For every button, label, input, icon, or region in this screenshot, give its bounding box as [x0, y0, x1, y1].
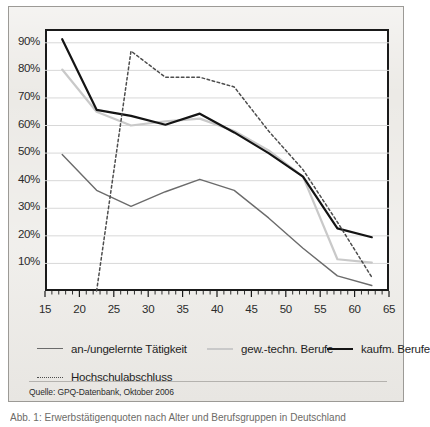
x-tick-label: 20 — [64, 303, 94, 315]
x-tick-label: 35 — [168, 303, 198, 315]
series-line-0 — [62, 154, 372, 285]
legend-swatch-icon — [327, 348, 353, 350]
source-note-text: Quelle: GPQ-Datenbank, Oktober 2006 — [29, 387, 387, 397]
legend-item[interactable]: gew.-techn. Berufe — [207, 343, 333, 355]
x-tick-label: 25 — [99, 303, 129, 315]
y-tick-label: 50% — [0, 145, 40, 157]
y-tick-label: 90% — [0, 35, 40, 47]
x-tick-label: 50 — [271, 303, 301, 315]
legend-row: Hochschulabschluss — [37, 358, 387, 377]
chart-legend: an-/ungelernte Tätigkeitgew.-techn. Beru… — [37, 339, 387, 377]
legend-swatch-icon — [207, 348, 233, 350]
legend-swatch-icon — [37, 377, 63, 378]
source-note-box: Quelle: GPQ-Datenbank, Oktober 2006 — [29, 381, 387, 397]
y-tick-label: 60% — [0, 118, 40, 130]
chart-figure-panel: 10%20%30%40%50%60%70%80%90% 152025303540… — [8, 6, 404, 402]
y-tick-label: 30% — [0, 200, 40, 212]
series-line-1 — [62, 70, 372, 263]
plot-wrapper: 10%20%30%40%50%60%70%80%90% 152025303540… — [45, 29, 389, 291]
legend-item[interactable]: an-/ungelernte Tätigkeit — [37, 343, 187, 355]
y-tick-label: 40% — [0, 173, 40, 185]
x-tick-label: 55 — [305, 303, 335, 315]
legend-label: an-/ungelernte Tätigkeit — [71, 343, 187, 355]
y-tick-label: 80% — [0, 62, 40, 74]
legend-item[interactable]: kaufm. Berufe — [327, 343, 430, 355]
data-series-layer — [45, 29, 389, 291]
series-line-3 — [97, 51, 372, 291]
x-tick-label: 65 — [374, 303, 404, 315]
y-tick-label: 70% — [0, 90, 40, 102]
x-tick-label: 60 — [340, 303, 370, 315]
legend-swatch-icon — [37, 348, 63, 349]
legend-row: an-/ungelernte Tätigkeitgew.-techn. Beru… — [37, 339, 387, 358]
x-tick-label: 40 — [202, 303, 232, 315]
x-tick-label: 45 — [236, 303, 266, 315]
x-tick-label: 30 — [133, 303, 163, 315]
y-tick-label: 10% — [0, 255, 40, 267]
legend-label: kaufm. Berufe — [361, 343, 430, 355]
legend-label: gew.-techn. Berufe — [241, 343, 333, 355]
y-tick-label: 20% — [0, 228, 40, 240]
x-tick-label: 15 — [30, 303, 60, 315]
figure-caption: Abb. 1: Erwerbstätigenquoten nach Alter … — [10, 412, 410, 423]
